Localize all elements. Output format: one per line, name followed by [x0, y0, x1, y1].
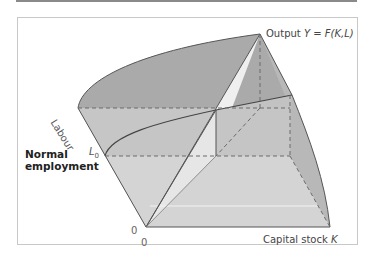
normal-employment-label: Normal employment [25, 148, 95, 172]
l0-label: L0 [89, 147, 99, 160]
origin-capital-label: 0 [141, 238, 147, 248]
origin-labour-label: 0 [131, 226, 137, 236]
output-axis-label: Output Y = F(K,L) [266, 29, 354, 39]
capital-axis-label: Capital stock K [263, 235, 338, 245]
